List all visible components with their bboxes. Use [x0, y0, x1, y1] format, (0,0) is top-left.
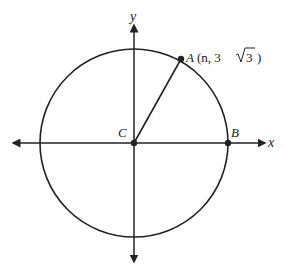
segment-ca — [134, 59, 181, 143]
x-axis-label: x — [267, 135, 275, 150]
radicand: 3 — [246, 50, 253, 65]
point-b — [225, 140, 231, 146]
point-a — [178, 56, 184, 62]
y-axis-label: y — [128, 9, 137, 24]
diagram-canvas: y x C B A (n, 3 3 ) — [0, 0, 283, 266]
label-a: A — [185, 50, 194, 65]
label-c: C — [118, 125, 127, 140]
label-a-coords: (n, 3 — [197, 50, 221, 65]
label-a-close-paren: ) — [257, 50, 261, 65]
point-c — [131, 140, 137, 146]
label-b: B — [231, 125, 239, 140]
